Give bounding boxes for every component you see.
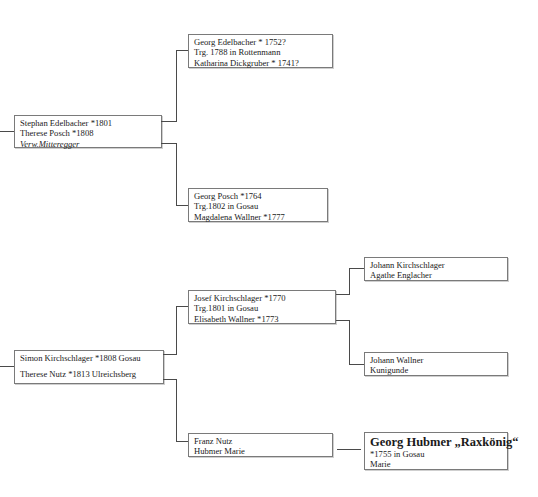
person-line: Kunigunde	[370, 365, 502, 375]
person-box-johann-kirchschlager[interactable]: Johann Kirchschlager Agathe Englacher	[364, 257, 508, 281]
person-line: Katharina Dickgruber * 1741?	[194, 58, 327, 68]
person-box-georg-edelbacher[interactable]: Georg Edelbacher * 1752? Trg. 1788 in Ro…	[188, 34, 333, 68]
person-line: *1755 in Gosau	[370, 449, 502, 459]
person-box-georg-posch[interactable]: Georg Posch *1764 Trg.1802 in Gosau Magd…	[188, 188, 328, 222]
person-line: Magdalena Wallner *1777	[194, 212, 322, 222]
person-line: Stephan Edelbacher *1801	[20, 118, 156, 128]
connector	[161, 143, 177, 144]
person-line: Simon Kirchschlager *1808 Gosau	[20, 353, 158, 363]
person-line: Elisabeth Wallner *1773	[194, 314, 330, 324]
connector	[0, 131, 14, 132]
connector	[163, 354, 177, 355]
person-box-simon-kirchschlager[interactable]: Simon Kirchschlager *1808 Gosau Therese …	[14, 350, 164, 384]
connector	[161, 121, 177, 122]
connector	[336, 294, 350, 295]
connector	[349, 320, 350, 365]
connector	[176, 205, 188, 206]
connector	[336, 320, 350, 321]
connector	[176, 379, 177, 442]
connector	[349, 364, 364, 365]
connector	[349, 268, 350, 295]
person-line: Georg Posch *1764	[194, 191, 322, 201]
person-line: Hubmer Marie	[194, 446, 327, 456]
connector	[163, 379, 177, 380]
person-line: Johann Kirchschlager	[370, 260, 502, 270]
person-line: Therese Posch *1808	[20, 128, 156, 138]
person-box-josef-kirchschlager[interactable]: Josef Kirchschlager *1770 Trg.1801 in Go…	[188, 290, 336, 324]
connector	[176, 50, 177, 122]
person-line: Marie	[370, 459, 502, 469]
person-box-johann-wallner[interactable]: Johann Wallner Kunigunde	[364, 352, 508, 376]
connector	[0, 366, 14, 367]
person-line: Georg Edelbacher * 1752?	[194, 37, 327, 47]
person-box-franz-nutz[interactable]: Franz Nutz Hubmer Marie	[188, 433, 333, 457]
person-line: Trg. 1788 in Rottenmann	[194, 47, 327, 57]
person-box-georg-hubmer[interactable]: Georg Hubmer „Raxkönig“ *1755 in Gosau M…	[364, 432, 508, 470]
person-line: Therese Nutz *1813 Ulreichsberg	[20, 369, 158, 379]
connector	[176, 143, 177, 206]
person-line: Trg.1801 in Gosau	[194, 303, 330, 313]
person-line: Josef Kirchschlager *1770	[194, 293, 330, 303]
connector	[176, 306, 188, 307]
connector	[349, 268, 364, 269]
person-line: Agathe Englacher	[370, 270, 502, 280]
connector	[176, 50, 188, 51]
connector	[176, 306, 177, 355]
person-line: Trg.1802 in Gosau	[194, 201, 322, 211]
person-line: Franz Nutz	[194, 436, 327, 446]
person-box-stephan-edelbacher[interactable]: Stephan Edelbacher *1801 Therese Posch *…	[14, 115, 162, 148]
person-line: Johann Wallner	[370, 355, 502, 365]
connector	[176, 441, 188, 442]
person-title: Georg Hubmer „Raxkönig“	[370, 435, 502, 449]
connector	[337, 449, 361, 450]
person-note: Verw.Mitteregger	[20, 139, 156, 149]
